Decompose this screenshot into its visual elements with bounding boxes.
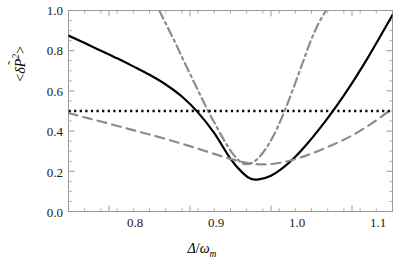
gray-dashdot-curve bbox=[159, 11, 326, 165]
xtick-label-1: 0.9 bbox=[208, 216, 224, 229]
ytick-label-1: 0.2 bbox=[33, 165, 63, 178]
x-axis-title: Δ/ωm bbox=[0, 242, 404, 259]
xtick-label-3: 1.1 bbox=[370, 216, 386, 229]
ytick-label-3: 0.6 bbox=[33, 84, 63, 97]
figure-container: 0.8 0.9 1.0 1.1 0.0 0.2 0.4 0.6 0.8 1.0 … bbox=[0, 0, 404, 269]
solid-black-curve bbox=[69, 15, 393, 180]
y-axis-title-p-tilde: ˜P bbox=[14, 59, 28, 68]
x-axis-title-omega: ω bbox=[200, 241, 210, 256]
gray-dashed-curve bbox=[69, 109, 393, 165]
xtick-label-2: 1.0 bbox=[289, 216, 305, 229]
ytick-label-2: 0.4 bbox=[33, 125, 63, 138]
xtick-label-0: 0.8 bbox=[127, 216, 143, 229]
y-axis-title-tilde: ˜ bbox=[8, 61, 20, 65]
y-axis-title: <δ˜P2> bbox=[12, 4, 28, 124]
ytick-label-0: 0.0 bbox=[33, 206, 63, 219]
x-axis-title-subscript: m bbox=[210, 249, 217, 259]
y-axis-title-delta: δ bbox=[13, 67, 28, 74]
ytick-label-4: 0.8 bbox=[33, 44, 63, 57]
y-axis-title-close-bracket: > bbox=[13, 46, 28, 54]
plot-group bbox=[69, 11, 393, 212]
y-axis-title-open-bracket: < bbox=[13, 74, 28, 82]
ytick-label-5: 1.0 bbox=[33, 4, 63, 17]
x-axis-title-delta: Δ bbox=[188, 241, 196, 256]
